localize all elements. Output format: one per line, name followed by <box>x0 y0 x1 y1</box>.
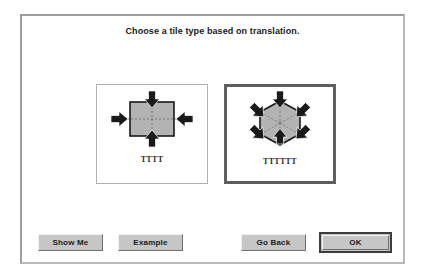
tile-option-square-label: TTTT <box>141 155 164 164</box>
square-tile-art <box>97 85 207 153</box>
hexagon-tile-art <box>227 87 333 155</box>
ok-button-default-frame: OK <box>319 232 392 253</box>
show-me-button[interactable]: Show Me <box>38 234 103 251</box>
hexagon-translation-icon <box>237 90 323 152</box>
page-title: Choose a tile type based on translation. <box>22 26 403 36</box>
example-button[interactable]: Example <box>118 234 183 251</box>
square-translation-icon <box>109 88 195 150</box>
tile-option-hexagon[interactable]: TTTTTT <box>224 84 336 184</box>
tile-option-square[interactable]: TTTT <box>96 84 208 184</box>
tile-type-dialog: Choose a tile type based on translation. <box>20 14 405 264</box>
go-back-button[interactable]: Go Back <box>241 234 306 251</box>
dialog-button-bar: Show Me Example Go Back OK <box>22 232 403 252</box>
ok-button[interactable]: OK <box>322 235 389 250</box>
tile-option-hexagon-label: TTTTTT <box>263 157 297 166</box>
tile-choice-group: TTTT <box>96 84 336 186</box>
